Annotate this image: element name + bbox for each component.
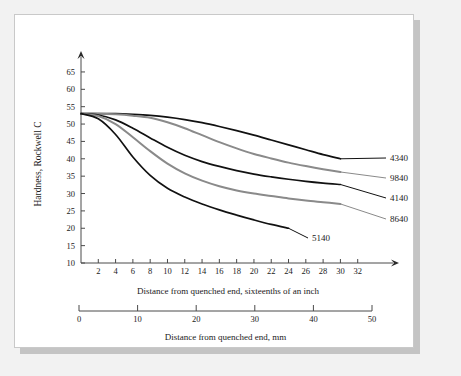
y-tick-label: 55 [67,102,76,112]
curve-5140 [81,114,289,229]
y-tick-label: 60 [67,84,76,94]
x-tick-label: 20 [250,266,258,276]
x-tick-label: 22 [267,266,276,276]
figure-card: 101520253035404550556065Hardness, Rockwe… [14,14,414,348]
leader-8640 [340,204,386,219]
mm-tick-label: 50 [368,314,377,324]
hardenability-chart: 101520253035404550556065Hardness, Rockwe… [15,15,413,347]
x-tick-label: 18 [232,266,241,276]
x-tick-label: 30 [336,266,345,276]
x-tick-label: 2 [96,266,100,276]
mm-axis-title: Distance from quenched end, mm [165,332,287,342]
curve-label-8640: 8640 [390,214,409,224]
y-tick-label: 30 [67,189,76,199]
x-tick-label: 4 [113,266,118,276]
leader-4140 [340,184,386,198]
leader-4340 [340,158,386,159]
mm-tick-label: 40 [309,314,318,324]
curve-label-5140: 5140 [312,233,331,243]
y-tick-label: 20 [67,223,76,233]
x-tick-label: 32 [353,266,362,276]
curve-label-9840: 9840 [390,173,409,183]
curve-label-4340: 4340 [390,153,409,163]
x-tick-label: 8 [148,266,152,276]
curve-4340 [81,114,340,159]
y-tick-label: 65 [67,67,76,77]
y-tick-label: 45 [67,136,76,146]
x-tick-label: 12 [181,266,190,276]
x-tick-label: 24 [284,266,293,276]
x-tick-label: 26 [302,266,311,276]
leader-9840 [340,172,386,178]
plot-area: 101520253035404550556065Hardness, Rockwe… [15,15,413,347]
y-tick-label: 15 [67,241,76,251]
x-tick-label: 6 [131,266,135,276]
leader-5140 [289,228,308,238]
mm-tick-label: 10 [133,314,142,324]
x-tick-label: 10 [163,266,172,276]
curve-label-4140: 4140 [390,193,409,203]
y-tick-label: 40 [67,154,76,164]
x-tick-label: 28 [319,266,328,276]
curve-8640 [81,114,340,204]
mm-tick-label: 0 [77,314,81,324]
x-tick-label: 16 [215,266,224,276]
mm-tick-label: 30 [251,314,259,324]
y-tick-label: 50 [67,119,76,129]
mm-tick-label: 20 [192,314,201,324]
y-tick-label: 10 [67,258,76,268]
y-tick-label: 35 [67,171,76,181]
x-axis-title: Distance from quenched end, sixteenths o… [137,286,319,296]
x-tick-label: 14 [198,266,207,276]
figure-root: 101520253035404550556065Hardness, Rockwe… [0,0,461,376]
y-axis-title: Hardness, Rockwell C [33,121,43,206]
y-tick-label: 25 [67,206,76,216]
